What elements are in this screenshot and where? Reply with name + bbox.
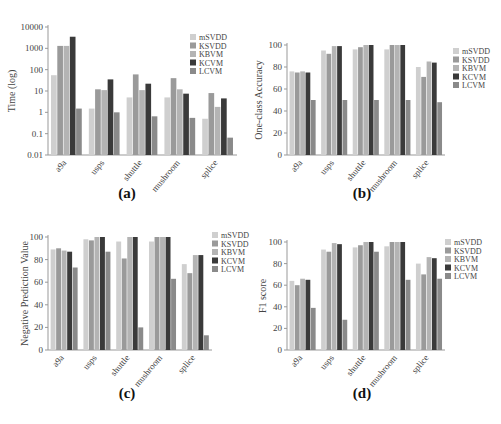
y-axis-label: F1 score [257,278,268,313]
caption-d: (d) [342,385,382,402]
bar-ksvdd [326,54,331,155]
bar-msvdd [321,51,326,156]
bar-msvdd [164,97,170,155]
bar-kbvm [300,279,305,350]
x-tick-label: shuttle [344,158,367,183]
bar-kcvm [432,258,437,350]
bar-kcvm [70,37,76,155]
bar-kcvm [133,237,138,350]
y-tick-label: 40 [273,106,283,116]
bar-msvdd [83,239,88,350]
bar-msvdd [416,264,421,350]
y-tick-label: 10000 [21,22,44,32]
x-tick-label: usps [318,352,336,371]
bar-kcvm [306,73,311,156]
legend-label: LCVM [462,81,485,90]
bar-kbvm [101,90,107,155]
bar-kbvm [363,242,368,350]
bar-ksvdd [390,45,395,155]
legend-label: LCVM [454,272,477,281]
bar-lcvm [342,320,347,350]
bar-lcvm [204,335,209,350]
bar-kbvm [395,45,400,155]
bar-lcvm [311,308,316,350]
y-tick-label: 100 [269,40,283,50]
y-tick-label: 100 [30,232,44,242]
bar-lcvm [437,279,442,350]
x-tick-label: a9a [50,353,66,369]
bar-msvdd [321,250,326,350]
legend-swatch [445,256,451,262]
x-tick-label: splice [410,353,431,376]
y-tick-label: 60 [273,84,283,94]
legend-swatch [453,48,459,54]
x-tick-label: splice [410,158,431,181]
bar-msvdd [149,242,154,350]
bar-ksvdd [421,77,426,155]
bar-ksvdd [155,237,160,350]
legend-swatch [453,82,459,88]
bar-kbvm [139,90,145,155]
x-tick-label: usps [81,352,99,371]
bar-ksvdd [358,47,363,155]
legend-swatch [190,43,196,49]
bar-ksvdd [421,274,426,350]
bar-kbvm [64,46,70,155]
legend-swatch [453,65,459,71]
y-tick-label: 1000 [25,43,44,53]
bar-kcvm [337,46,342,155]
bar-ksvdd [171,78,177,155]
x-tick-label: splice [176,353,197,376]
chart-time: 0.010.1110100100010000Time (log)a9auspss… [0,0,250,210]
panel-b: 020406080100One-class Accuracya9auspsshu… [250,0,501,210]
bar-msvdd [89,109,95,155]
y-tick-label: 100 [30,65,44,75]
x-tick-label: shuttle [121,158,144,183]
x-tick-label: a9a [289,158,305,174]
x-tick-label: mushroom [367,353,399,389]
bar-msvdd [51,75,57,155]
y-tick-label: 0 [278,150,283,160]
x-tick-label: usps [88,157,106,176]
y-tick-label: 20 [273,128,283,138]
bar-lcvm [406,100,411,155]
bar-lcvm [406,280,411,350]
bar-lcvm [76,109,82,155]
bar-msvdd [353,49,358,155]
bar-kcvm [108,79,114,155]
y-tick-label: 20 [273,323,283,333]
bar-kbvm [300,71,305,155]
chart-one-class-accuracy: 020406080100One-class Accuracya9auspsshu… [250,0,501,210]
bar-ksvdd [57,46,63,155]
bar-kcvm [67,252,72,350]
x-tick-label: shuttle [108,353,131,378]
legend-swatch [445,248,451,254]
bar-ksvdd [208,93,214,155]
y-tick-label: 60 [34,277,44,287]
bar-ksvdd [56,248,61,350]
bar-kbvm [127,237,132,350]
bar-ksvdd [390,242,395,350]
bar-lcvm [106,252,111,350]
bar-kbvm [363,45,368,155]
legend-label: LCVM [199,67,222,76]
bar-lcvm [437,102,442,155]
legend-swatch [453,74,459,80]
bar-msvdd [51,249,56,350]
y-tick-label: 0.01 [27,150,43,160]
y-tick-label: 40 [273,302,283,312]
x-tick-label: usps [318,157,336,176]
bar-msvdd [127,97,133,155]
bar-kbvm [94,237,99,350]
bar-msvdd [290,71,295,155]
bar-kcvm [306,280,311,350]
bar-ksvdd [295,73,300,156]
bar-kbvm [332,243,337,350]
y-tick-label: 60 [273,280,283,290]
bar-kcvm [145,84,151,155]
x-tick-label: mushroom [149,158,181,194]
bar-kcvm [400,242,405,350]
y-tick-label: 80 [34,255,44,265]
bar-lcvm [342,100,347,155]
bar-ksvdd [358,245,363,350]
